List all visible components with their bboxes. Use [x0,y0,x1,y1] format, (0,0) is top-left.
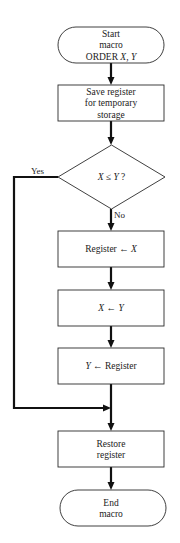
edge-reg-x-to-x-y [108,267,115,290]
label-segment: Register ← [85,244,131,254]
node-label-line: for temporary [85,98,138,108]
node-label-line: End [103,498,119,508]
arrowhead-icon [108,423,115,431]
label-segment: Save register [86,87,136,97]
edge-restore-to-end [108,467,115,490]
edge-label-no: No [114,210,125,220]
label-segment: storage [97,110,124,120]
node-y-reg: Y ← Register [58,348,164,384]
label-segment: ? [119,172,126,182]
node-label-line: macro [99,509,123,519]
node-compare: X ≤ Y ? [58,145,165,209]
edge-x-y-to-y-reg [108,326,115,348]
node-label-line: register [97,450,126,460]
arrowhead-icon [108,340,115,348]
label-segment: macro [99,40,123,50]
edge-start-to-save [108,63,115,85]
node-label-line: Register ← X [85,244,138,254]
edges-layer: NoYes [14,63,125,490]
arrowhead-icon [103,405,111,412]
label-segment: for temporary [85,98,138,108]
node-label-line: ORDER X, Y [86,52,138,62]
node-restore: Restoreregister [58,431,164,467]
node-label-line: Y ← Register [85,361,137,371]
node-label-line: X ← Y [97,303,125,313]
label-segment: ← Register [91,361,138,371]
label-segment: Start [102,29,120,39]
label-segment: X [130,244,138,254]
node-label-line: storage [97,110,124,120]
arrowhead-icon [108,137,115,145]
node-label-line: Save register [86,87,136,97]
arrowhead-icon [108,223,115,231]
label-segment: register [97,450,126,460]
node-label-line: Start [102,29,120,39]
label-segment: macro [99,509,123,519]
label-segment: Restore [96,439,125,449]
label-segment: ≤ [103,172,113,182]
arrowhead-icon [108,482,115,490]
node-reg-x: Register ← X [58,231,164,267]
edge-compare-to-reg-x: No [108,209,126,231]
edge-label-yes: Yes [31,166,45,176]
label-segment: ORDER [86,52,121,62]
edge-save-to-compare [108,121,115,145]
node-label-line: Restore [96,439,125,449]
node-save: Save registerfor temporarystorage [58,85,164,121]
node-start: StartmacroORDER X, Y [58,27,164,63]
node-end: Endmacro [60,490,166,526]
node-label-line: X ≤ Y ? [97,172,126,182]
arrowhead-icon [108,77,115,85]
node-label-line: macro [99,40,123,50]
label-segment: ← [104,303,118,313]
arrowhead-icon [108,282,115,290]
node-x-y: X ← Y [58,290,164,326]
flowchart: NoYes StartmacroORDER X, YSave registerf… [0,0,180,543]
label-segment: End [103,498,119,508]
